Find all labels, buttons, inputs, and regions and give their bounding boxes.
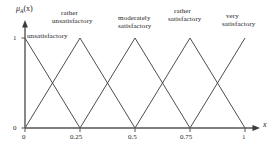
curve-label-very-satisfactory-line2: satisfactory [222,21,255,29]
curve-label-rather-unsatisfactory-line2: unsatisfactory [52,18,93,26]
curve-label-rather-satisfactory-line2: satisfactory [168,16,201,24]
x-tick-label-025: 0.25 [70,133,82,141]
x-axis-title: x [263,120,267,129]
x-tick-label-05: 0.5 [128,133,137,141]
y-tick-label-0: 0 [13,124,17,132]
curve-label-unsatisfactory: unsatisfactory [27,33,68,41]
curve-label-moderately-satisfactory-line2: satisfactory [118,23,151,31]
x-axis-arrow [253,125,261,131]
series-line-moderately-satisfactory [80,38,190,128]
y-axis-arrow [22,20,28,28]
x-tick-label-1: 1 [242,133,246,141]
x-tick-label-0: 0 [22,133,26,141]
x-tick-label-075: 0.75 [180,133,192,141]
series-line-rather-unsatisfactory [25,38,135,128]
y-axis-argument: (x) [23,4,32,13]
series-line-rather-satisfactory [135,38,245,128]
y-tick-label-1: 1 [13,34,17,42]
y-axis-title: μA(x) [16,4,33,14]
fuzzy-membership-chart: μA(x) x 1 0 0 0.25 0.5 0.75 1 unsatisfac… [0,0,277,150]
series-lines [25,38,245,128]
